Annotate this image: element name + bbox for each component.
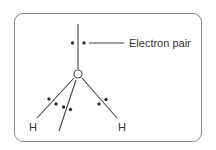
- hydrogen-label-left: H: [29, 121, 37, 133]
- electron-dot: [47, 97, 50, 100]
- electron-dot: [69, 108, 72, 111]
- electron-pair-label: Electron pair: [129, 37, 191, 49]
- bond-left-hydrogen: [37, 78, 74, 118]
- electron-dot: [62, 105, 65, 108]
- electron-dot: [82, 41, 85, 44]
- electron-dot: [97, 102, 100, 105]
- electron-dot: [71, 41, 74, 44]
- hydrogen-label-right: H: [118, 121, 126, 133]
- electron-dot: [54, 102, 57, 105]
- bond-right-hydrogen: [82, 78, 117, 118]
- electron-dot: [104, 98, 107, 101]
- oxygen-atom: [74, 70, 82, 78]
- lower-orbital-line: [59, 80, 76, 131]
- water-molecule-diagram: Electron pair O H H: [0, 0, 216, 150]
